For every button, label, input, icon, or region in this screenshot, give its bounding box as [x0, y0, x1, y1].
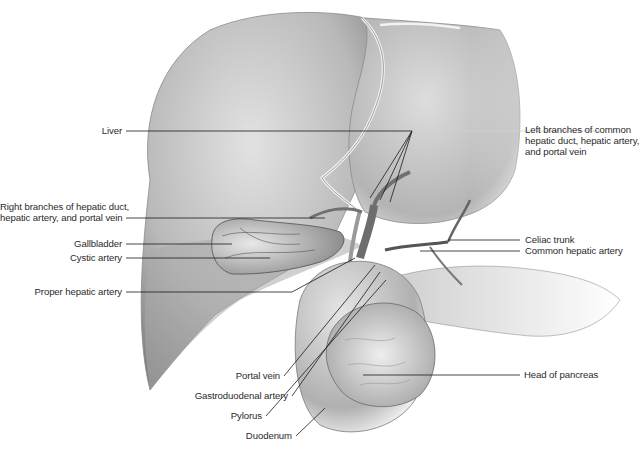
label-right-branches: Right branches of hepatic duct, hepatic … [0, 201, 122, 223]
label-cystic-artery: Cystic artery [40, 252, 122, 263]
label-pylorus: Pylorus [180, 410, 262, 421]
label-proper-hepatic-artery: Proper hepatic artery [10, 286, 122, 297]
label-left-branches-line1: Left branches of common [525, 124, 639, 135]
label-head-of-pancreas: Head of pancreas [524, 369, 598, 380]
label-portal-vein: Portal vein [180, 370, 280, 381]
label-common-hepatic-artery: Common hepatic artery [525, 245, 623, 256]
label-celiac-trunk: Celiac trunk [525, 234, 574, 245]
hepatic-artery [385, 242, 448, 250]
label-left-branches: Left branches of common hepatic duct, he… [525, 124, 639, 157]
label-gastroduodenal-artery: Gastroduodenal artery [150, 390, 288, 401]
label-left-branches-line2: hepatic duct, hepatic artery, [525, 135, 639, 146]
label-right-branches-line1: Right branches of hepatic duct, [0, 201, 122, 212]
label-left-branches-line3: and portal vein [525, 146, 639, 157]
label-duodenum: Duodenum [180, 430, 292, 441]
pancreas-head [326, 303, 435, 407]
label-liver: Liver [60, 125, 122, 136]
label-gallbladder: Gallbladder [40, 238, 122, 249]
label-right-branches-line2: hepatic artery, and portal vein [0, 212, 122, 223]
